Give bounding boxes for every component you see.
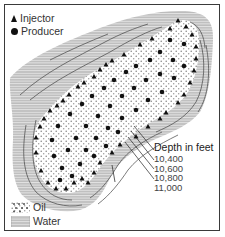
oil-swatch-icon	[11, 202, 30, 213]
depth-legend: Depth in feet 10,400 10,600 10,800 11,00…	[154, 141, 214, 192]
injector-triangle-icon	[11, 15, 17, 22]
legend-oil: Oil	[11, 200, 61, 214]
fluid-legend: Oil Water	[11, 200, 61, 228]
legend-water: Water	[11, 214, 61, 228]
oil-label: Oil	[33, 200, 46, 214]
legend-producer: Producer	[11, 25, 64, 38]
legend-injector: Injector	[11, 12, 64, 25]
producer-dot-icon	[11, 28, 18, 35]
water-swatch-icon	[11, 216, 30, 227]
well-legend: Injector Producer	[11, 12, 64, 38]
water-label: Water	[33, 214, 61, 228]
injector-label: Injector	[20, 12, 54, 25]
producer-label: Producer	[21, 25, 64, 38]
depth-contour-11000: 11,000	[154, 183, 214, 193]
